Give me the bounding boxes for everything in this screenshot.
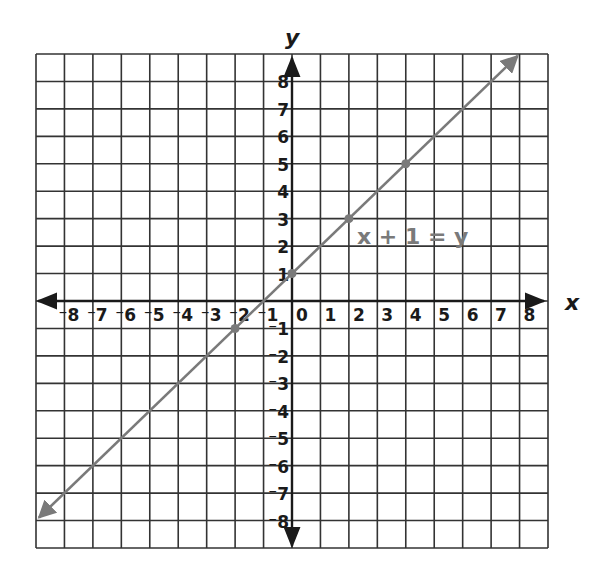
y-tick-label: ⁻4 bbox=[268, 402, 289, 422]
x-tick-label: ⁻4 bbox=[172, 305, 193, 325]
x-tick-label: ⁻2 bbox=[229, 305, 250, 325]
x-tick-label: 3 bbox=[381, 305, 393, 325]
y-tick-label: ⁻1 bbox=[268, 319, 289, 339]
x-tick-label: 0 bbox=[296, 305, 308, 325]
data-point bbox=[344, 214, 353, 223]
x-tick-label: ⁻7 bbox=[87, 305, 108, 325]
y-tick-label: 4 bbox=[277, 182, 289, 202]
equation-label: x + 1 = y bbox=[357, 224, 468, 249]
x-tick-label: ⁻5 bbox=[144, 305, 165, 325]
y-tick-label: 3 bbox=[277, 210, 289, 230]
data-point bbox=[401, 159, 410, 168]
axes bbox=[38, 58, 544, 546]
x-tick-label: ⁻8 bbox=[58, 305, 79, 325]
x-tick-label: 7 bbox=[495, 305, 507, 325]
x-tick-label: ⁻3 bbox=[201, 305, 222, 325]
y-tick-label: 6 bbox=[277, 127, 289, 147]
data-point bbox=[288, 269, 297, 278]
data-point bbox=[231, 324, 240, 333]
coordinate-plane: ⁻8⁻7⁻6⁻5⁻4⁻3⁻2⁻101234567887654321⁻1⁻2⁻3⁻… bbox=[0, 0, 604, 576]
y-tick-label: ⁻7 bbox=[268, 484, 289, 504]
y-tick-label: ⁻2 bbox=[268, 347, 289, 367]
x-tick-label: 5 bbox=[438, 305, 450, 325]
x-axis-label: x bbox=[564, 290, 580, 315]
y-axis-label: y bbox=[285, 25, 301, 50]
x-tick-label: 2 bbox=[353, 305, 365, 325]
x-tick-label: 8 bbox=[524, 305, 536, 325]
y-tick-label: 5 bbox=[277, 155, 289, 175]
y-tick-label: 7 bbox=[277, 100, 289, 120]
y-tick-label: 2 bbox=[277, 237, 289, 257]
x-tick-label: 6 bbox=[467, 305, 479, 325]
y-tick-label: ⁻6 bbox=[268, 457, 289, 477]
x-tick-label: ⁻6 bbox=[115, 305, 136, 325]
y-tick-label: ⁻3 bbox=[268, 374, 289, 394]
y-tick-label: 8 bbox=[277, 72, 289, 92]
y-tick-label: ⁻5 bbox=[268, 429, 289, 449]
y-tick-label: ⁻8 bbox=[268, 512, 289, 532]
x-tick-label: 4 bbox=[410, 305, 422, 325]
x-tick-label: 1 bbox=[324, 305, 336, 325]
